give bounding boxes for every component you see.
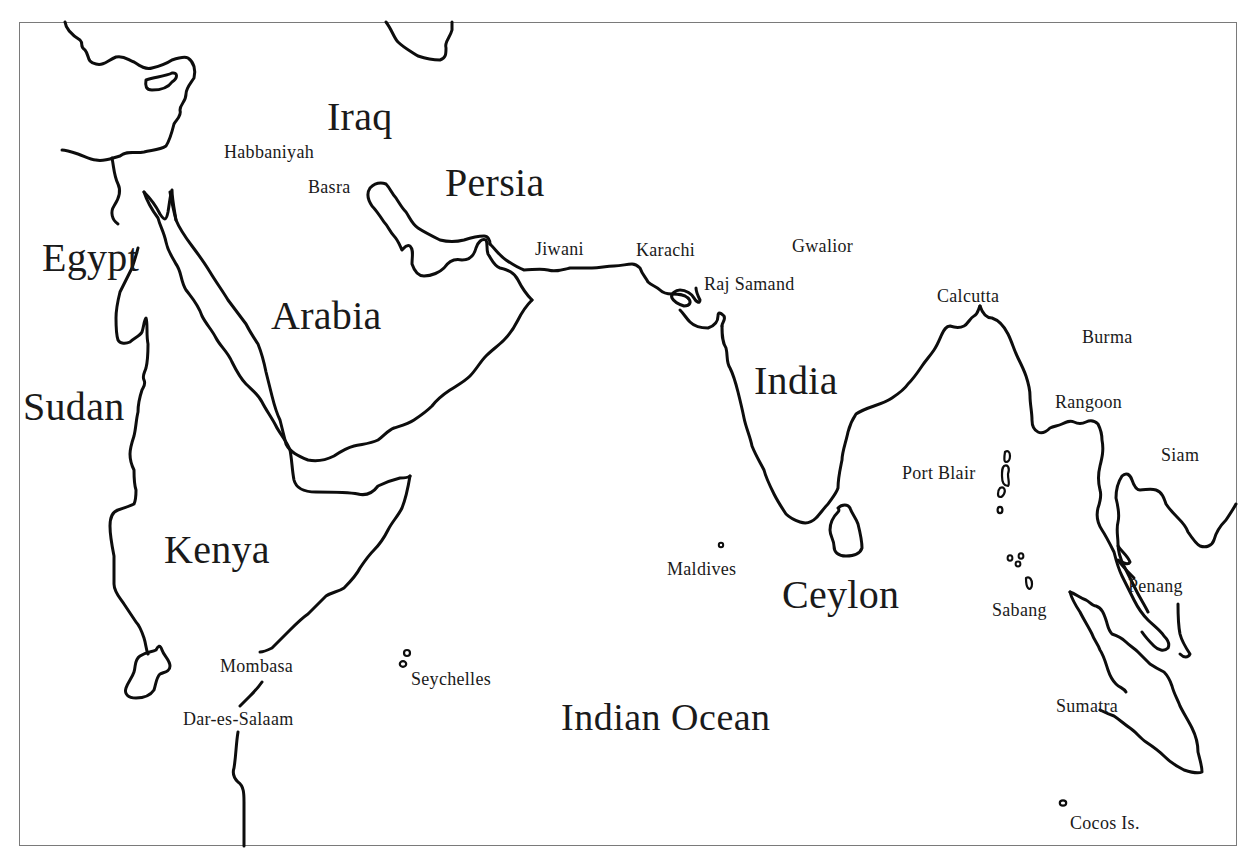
seychelles-islet-1 bbox=[404, 650, 410, 656]
andaman-island-2 bbox=[1002, 465, 1009, 486]
place-label-seychelles: Seychelles bbox=[411, 670, 491, 688]
cyprus-island bbox=[146, 73, 177, 90]
place-label-siam: Siam bbox=[1161, 446, 1199, 464]
anatolia-coast bbox=[62, 22, 195, 161]
place-label-jiwani: Jiwani bbox=[535, 240, 584, 258]
cocos-islands bbox=[1060, 800, 1066, 805]
region-label-ceylon: Ceylon bbox=[782, 575, 899, 615]
ceylon-island bbox=[830, 505, 862, 556]
madagascar-fragment bbox=[125, 646, 170, 698]
maldives-dot bbox=[719, 543, 723, 547]
place-label-cocos-is: Cocos Is. bbox=[1070, 814, 1140, 832]
place-label-mombasa: Mombasa bbox=[218, 657, 295, 675]
nicobar-islet-4 bbox=[1016, 562, 1021, 567]
seychelles-islet-2 bbox=[400, 661, 406, 667]
place-label-raj-samand: Raj Samand bbox=[704, 275, 795, 293]
red-sea-west-coast bbox=[144, 192, 410, 495]
region-label-egypt: Egypt bbox=[42, 238, 139, 278]
caspian-coast bbox=[386, 22, 452, 60]
place-label-calcutta: Calcutta bbox=[937, 287, 999, 305]
kathiawar-coast bbox=[680, 310, 725, 328]
place-label-maldives: Maldives bbox=[667, 560, 736, 578]
africa-east-coast-south bbox=[233, 732, 244, 846]
place-label-karachi: Karachi bbox=[636, 241, 695, 259]
place-label-rangoon: Rangoon bbox=[1055, 393, 1122, 411]
place-label-dar-es-salaam: Dar-es-Salaam bbox=[181, 710, 296, 728]
place-label-gwalior: Gwalior bbox=[792, 237, 853, 255]
region-label-sudan: Sudan bbox=[23, 387, 125, 427]
region-label-iraq: Iraq bbox=[327, 97, 393, 137]
nicobar-islet-3 bbox=[1019, 553, 1024, 559]
nicobar-islet-2 bbox=[1008, 555, 1013, 561]
nile-river bbox=[112, 158, 120, 224]
place-label-burma: Burma bbox=[1082, 328, 1133, 346]
andaman-island-3 bbox=[998, 487, 1005, 497]
place-label-sumatra: Sumatra bbox=[1056, 697, 1118, 715]
africa-east-coast-north bbox=[260, 476, 410, 652]
place-label-sabang: Sabang bbox=[992, 601, 1047, 619]
andaman-island-1 bbox=[1004, 451, 1010, 462]
region-label-persia: Persia bbox=[445, 163, 545, 203]
region-label-kenya: Kenya bbox=[164, 530, 270, 570]
sudan-boundary bbox=[110, 248, 148, 654]
place-label-basra: Basra bbox=[308, 178, 350, 196]
sumatra-east-coast bbox=[1070, 592, 1202, 773]
place-label-habbaniyah: Habbaniyah bbox=[224, 143, 314, 161]
place-label-penang: Penang bbox=[1128, 577, 1183, 595]
india-west-coast bbox=[722, 306, 980, 523]
place-label-port-blair: Port Blair bbox=[902, 464, 976, 482]
ocean-label-indian-ocean: Indian Ocean bbox=[561, 698, 771, 736]
nicobar-islet-5 bbox=[1026, 577, 1032, 588]
region-label-arabia: Arabia bbox=[271, 296, 382, 336]
malay-east-coast bbox=[1178, 604, 1190, 657]
africa-east-coast-mid bbox=[240, 682, 262, 706]
nicobar-islet-1 bbox=[998, 507, 1003, 513]
region-label-india: India bbox=[754, 361, 838, 401]
